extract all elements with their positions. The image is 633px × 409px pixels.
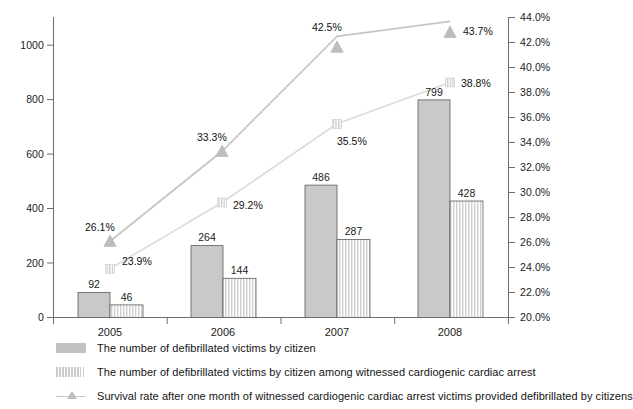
bar-group-2006: [191, 246, 256, 318]
legend-label-solid-bars: The number of defibrillated victims by c…: [97, 342, 316, 354]
bar-value-striped-2007: 287: [337, 225, 370, 237]
point-label-secondary-2008: 38.8%: [461, 77, 491, 89]
bar-value-striped-2006: 144: [223, 264, 256, 276]
right-axis: [509, 17, 516, 318]
left-axis-tick-200: 200: [6, 257, 44, 269]
legend-item-striped-bars: The number of defibrillated victims by c…: [56, 360, 581, 384]
right-axis-tick-34: 34.0%: [520, 136, 550, 148]
right-axis-tick-24: 24.0%: [520, 261, 550, 273]
point-label-survival-2008: 43.7%: [463, 25, 493, 37]
left-axis-tick-0: 0: [6, 311, 44, 323]
right-axis-tick-32: 32.0%: [520, 161, 550, 173]
line-series-secondary: [106, 78, 455, 273]
legend-label-survival-line: Survival rate after one month of witness…: [97, 390, 633, 402]
bar-value-solid-2007: 486: [305, 171, 337, 183]
point-label-secondary-2005: 23.9%: [122, 255, 152, 267]
left-axis-tick-600: 600: [6, 148, 44, 160]
bar-striped-2005: [110, 305, 143, 318]
line-marker-square-2005: [106, 264, 115, 273]
left-axis-tick-800: 800: [6, 93, 44, 105]
chart-legend: The number of defibrillated victims by c…: [56, 336, 581, 408]
line-marker-square-2007: [333, 119, 342, 128]
left-axis: [47, 17, 54, 318]
legend-item-survival-line: Survival rate after one month of witness…: [56, 384, 581, 408]
point-label-survival-2007: 42.5%: [312, 21, 342, 33]
bar-group-2007: [305, 185, 370, 317]
left-axis-tick-1000: 1000: [6, 39, 44, 51]
legend-solid-bar-swatch-icon: [56, 343, 86, 353]
legend-item-solid-bars: The number of defibrillated victims by c…: [56, 336, 581, 360]
legend-line-triangle-swatch-icon: [56, 390, 86, 402]
x-axis: [54, 318, 509, 325]
point-label-secondary-2006: 29.2%: [233, 199, 263, 211]
bar-solid-2007: [305, 185, 337, 317]
right-axis-tick-36: 36.0%: [520, 111, 550, 123]
left-axis-tick-400: 400: [6, 202, 44, 214]
point-label-secondary-2007: 35.5%: [337, 135, 367, 147]
bar-solid-2008: [418, 100, 450, 318]
bar-group-2008: [418, 100, 483, 318]
line-series-survival-rate: [104, 21, 456, 246]
right-axis-tick-28: 28.0%: [520, 211, 550, 223]
bar-striped-2007: [337, 239, 370, 317]
bar-value-striped-2008: 428: [450, 187, 483, 199]
line-marker-triangle-2008: [444, 26, 456, 38]
bar-value-solid-2006: 264: [191, 231, 223, 243]
legend-striped-bar-swatch-icon: [56, 367, 86, 377]
right-axis-tick-26: 26.0%: [520, 236, 550, 248]
bar-value-striped-2005: 46: [110, 291, 143, 303]
line-marker-triangle-2007: [331, 41, 343, 53]
bar-solid-2005: [78, 292, 110, 317]
bar-striped-2006: [223, 278, 256, 317]
bar-solid-2006: [191, 246, 223, 318]
right-axis-tick-38: 38.0%: [520, 86, 550, 98]
right-axis-tick-22: 22.0%: [520, 286, 550, 298]
right-axis-tick-40: 40.0%: [520, 61, 550, 73]
legend-label-striped-bars: The number of defibrillated victims by c…: [97, 366, 536, 378]
right-axis-tick-30: 30.0%: [520, 186, 550, 198]
right-axis-tick-42: 42.0%: [520, 36, 550, 48]
point-label-survival-2005: 26.1%: [85, 221, 115, 233]
line-marker-square-2006: [218, 198, 227, 207]
bar-striped-2008: [450, 201, 483, 318]
right-axis-tick-20: 20.0%: [520, 311, 550, 323]
bar-value-solid-2008: 799: [418, 86, 450, 98]
right-axis-tick-44: 44.0%: [520, 11, 550, 23]
bar-value-solid-2005: 92: [78, 278, 110, 290]
point-label-survival-2006: 33.3%: [197, 131, 227, 143]
